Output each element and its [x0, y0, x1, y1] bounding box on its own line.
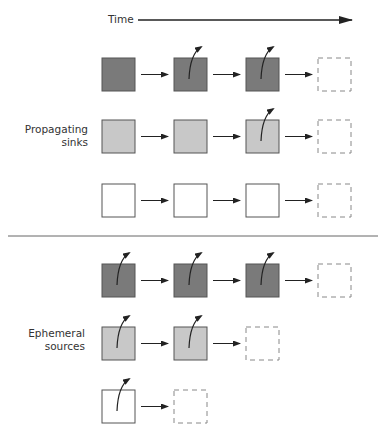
cell-box — [102, 120, 135, 153]
diagram-canvas — [0, 0, 389, 439]
section-label-line1: Ephemeral — [28, 327, 85, 340]
cell-box — [102, 58, 135, 91]
cell-box — [174, 184, 207, 217]
cell-box — [174, 120, 207, 153]
future-cell-box — [318, 184, 351, 217]
cell-box — [102, 184, 135, 217]
future-cell-box — [318, 120, 351, 153]
cell-box — [246, 184, 279, 217]
future-cell-box — [318, 264, 351, 297]
section-label-ephemeral-sources: Ephemeral sources — [28, 327, 85, 353]
section-label-line2: sinks — [25, 136, 88, 149]
section-label-line1: Propagating — [25, 123, 88, 136]
section-label-line2: sources — [28, 340, 85, 353]
future-cell-box — [318, 58, 351, 91]
section-label-propagating-sinks: Propagating sinks — [25, 123, 88, 149]
future-cell-box — [174, 390, 207, 423]
future-cell-box — [246, 327, 279, 360]
time-label: Time — [108, 13, 134, 26]
